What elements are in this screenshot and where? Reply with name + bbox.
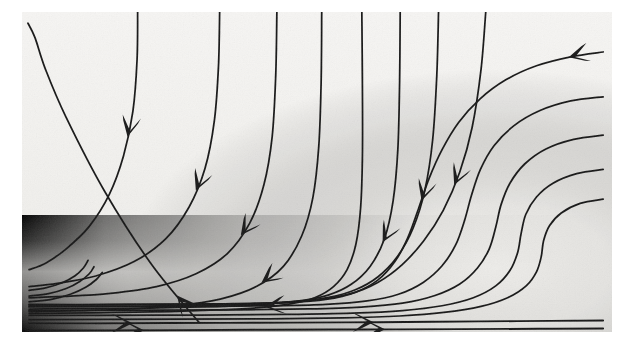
scan-noise-overlay <box>22 12 612 332</box>
figure-container: Streamline flow field with boundary laye… <box>0 0 631 343</box>
streamline-plot <box>0 0 631 343</box>
